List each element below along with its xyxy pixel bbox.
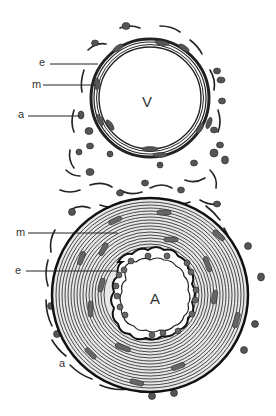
artery-label-a: a [59,358,65,369]
artery-lumen-label: A [150,291,160,306]
vein-label-a: a [18,109,24,120]
vein-label-m: m [32,79,41,90]
vein-lumen-label: V [142,94,152,109]
artery-label-e: e [15,265,21,276]
vein-label-e: e [39,57,45,68]
artery-label-m: m [16,227,25,238]
